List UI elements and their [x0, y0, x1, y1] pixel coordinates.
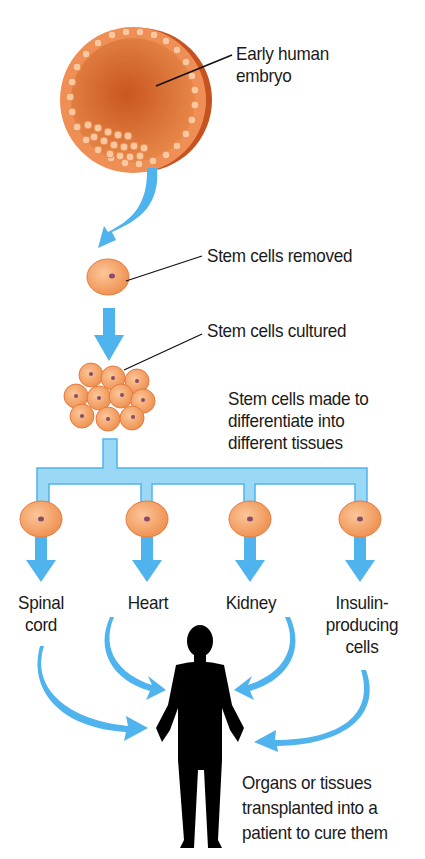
down-arrow-icon	[94, 308, 124, 361]
cultured-pointer-line	[124, 334, 202, 370]
patient-label: Organs or tissues transplanted into a pa…	[242, 770, 388, 845]
cultured-label: Stem cells cultured	[207, 320, 346, 342]
differentiate-line3: different tissues	[228, 432, 369, 454]
tissue-label-insulin: Insulin- producing cells	[319, 592, 405, 658]
tissue-label-spinal-cord: Spinal cord	[11, 592, 70, 636]
tissue-label-line: Kidney	[219, 592, 284, 614]
embryo-icon	[60, 27, 212, 173]
embryo-label: Early human embryo	[236, 43, 329, 87]
differentiate-label: Stem cells made to differentiate into di…	[228, 388, 369, 454]
removed-pointer-line	[126, 256, 202, 281]
tissue-label-line: cord	[11, 614, 70, 636]
differentiate-line2: differentiate into	[228, 410, 369, 432]
tissue-label-line: Heart	[118, 592, 177, 614]
embryo-label-line2: embryo	[236, 65, 329, 87]
tissue-label-line: Insulin-	[319, 592, 405, 614]
patient-label-line1: Organs or tissues	[242, 770, 388, 795]
embryo-label-line1: Early human	[236, 43, 329, 65]
stem-cell-icon	[87, 259, 129, 295]
tissue-label-line: producing	[319, 614, 405, 636]
tissue-cells	[20, 501, 381, 582]
tissue-label-kidney: Kidney	[219, 592, 284, 614]
curved-arrow-icon	[98, 168, 157, 248]
cultured-cells-icon	[64, 363, 155, 431]
removed-label: Stem cells removed	[207, 245, 352, 267]
tissue-label-line: cells	[319, 636, 405, 658]
patient-silhouette-icon	[156, 625, 244, 848]
differentiate-line1: Stem cells made to	[228, 388, 369, 410]
patient-label-line2: transplanted into a	[242, 795, 388, 820]
tissue-label-line: Spinal	[11, 592, 70, 614]
patient-label-line3: patient to cure them	[242, 820, 388, 845]
tissue-label-heart: Heart	[118, 592, 177, 614]
